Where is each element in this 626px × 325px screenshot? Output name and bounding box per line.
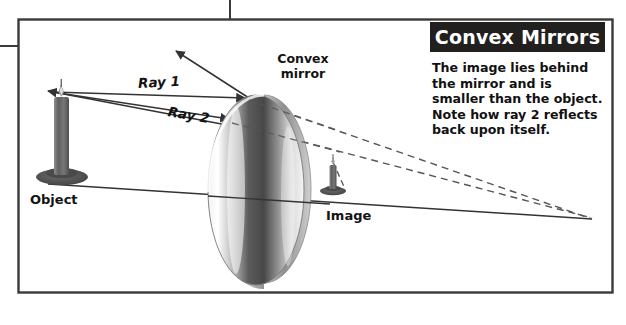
- panel-title-bar: Convex Mirrors: [430, 22, 605, 52]
- convex-mirror: [208, 95, 311, 289]
- ray1-reflected: [176, 51, 249, 98]
- optical-axis: [48, 184, 592, 219]
- label-convex-mirror: Convex mirror: [268, 52, 338, 81]
- object-candle: [36, 79, 88, 185]
- label-convex-mirror-line2: mirror: [268, 67, 338, 82]
- image-candle: [320, 154, 346, 195]
- label-image: Image: [326, 208, 371, 223]
- panel-title: Convex Mirrors: [435, 26, 600, 48]
- label-object: Object: [30, 192, 78, 207]
- label-convex-mirror-line1: Convex: [268, 52, 338, 67]
- panel-caption: The image lies behind the mirror and is …: [432, 60, 608, 138]
- label-ray-1: Ray 1: [138, 73, 181, 91]
- figure-panel: Convex Mirrors The image lies behind the…: [0, 0, 626, 325]
